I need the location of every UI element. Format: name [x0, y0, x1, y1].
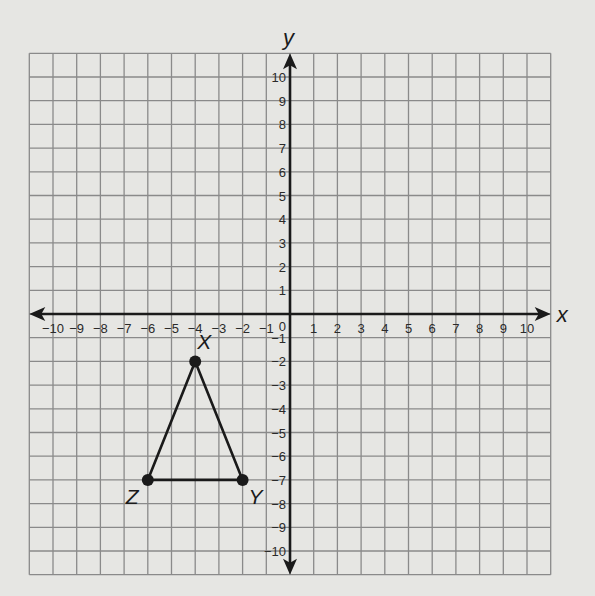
x-axis-label: x [556, 302, 569, 327]
x-tick-label: 4 [381, 321, 388, 336]
coordinate-plane: xy −10−9−8−7−6−5−4−3−2−11234567891010987… [0, 0, 595, 596]
y-tick-label: 2 [279, 260, 286, 275]
vertex-point-x [189, 355, 201, 367]
x-tick-label: 7 [452, 321, 459, 336]
x-tick-label: 10 [520, 321, 534, 336]
vertex-label-x: X [196, 330, 212, 353]
x-tick-label: 6 [429, 321, 436, 336]
vertex-point-y [237, 474, 249, 486]
y-tick-label: −9 [271, 520, 286, 535]
y-tick-label: −5 [271, 426, 286, 441]
x-tick-label: −6 [140, 321, 155, 336]
axes: xy [29, 25, 568, 574]
y-axis-label: y [281, 25, 296, 50]
vertex-label-z: Z [125, 485, 140, 508]
vertex-label-y: Y [249, 485, 265, 508]
y-tick-label: 9 [279, 94, 286, 109]
x-tick-label: 2 [334, 321, 341, 336]
x-tick-label: 8 [476, 321, 483, 336]
y-tick-label: −4 [271, 402, 286, 417]
y-tick-label: 5 [279, 189, 286, 204]
x-tick-label: 1 [310, 321, 317, 336]
y-tick-label: −6 [271, 449, 286, 464]
y-tick-label: 4 [279, 212, 286, 227]
y-tick-label: 8 [279, 117, 286, 132]
y-tick-label: 7 [279, 141, 286, 156]
y-tick-label: 1 [279, 283, 286, 298]
x-tick-label: −7 [117, 321, 132, 336]
x-tick-label: 3 [357, 321, 364, 336]
x-tick-label: 5 [405, 321, 412, 336]
x-tick-label: −9 [69, 321, 84, 336]
origin-label: 0 [279, 319, 286, 334]
x-tick-label: −5 [164, 321, 179, 336]
y-tick-label: −3 [271, 378, 286, 393]
y-tick-label: −7 [271, 473, 286, 488]
y-tick-label: −8 [271, 497, 286, 512]
x-tick-label: −3 [211, 321, 226, 336]
y-tick-label: −2 [271, 354, 286, 369]
y-tick-label: 6 [279, 165, 286, 180]
x-tick-label: 9 [500, 321, 507, 336]
y-tick-label: 10 [272, 70, 286, 85]
y-tick-label: 3 [279, 236, 286, 251]
x-tick-label: −8 [93, 321, 108, 336]
x-tick-label: −2 [235, 321, 250, 336]
vertex-point-z [142, 474, 154, 486]
y-tick-label: −10 [264, 544, 286, 559]
x-tick-label: −10 [42, 321, 64, 336]
